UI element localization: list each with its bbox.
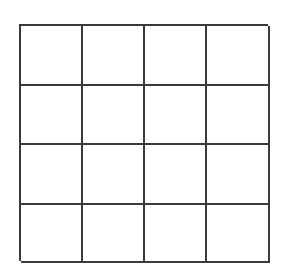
- grid-figure: [19, 24, 268, 261]
- grid-cell-r2c1[interactable]: [21, 86, 83, 145]
- grid-cell-r3c3[interactable]: [145, 145, 207, 205]
- grid-cell-r4c2[interactable]: [83, 205, 145, 263]
- grid-cell-r3c4[interactable]: [207, 145, 270, 205]
- grid-cell-r4c3[interactable]: [145, 205, 207, 263]
- grid-cell-r1c4[interactable]: [207, 26, 270, 86]
- grid-cell-r1c3[interactable]: [145, 26, 207, 86]
- grid-cell-r4c4[interactable]: [207, 205, 270, 263]
- grid-cell-r1c1[interactable]: [21, 26, 83, 86]
- grid-cell-r3c2[interactable]: [83, 145, 145, 205]
- grid-cell-r2c3[interactable]: [145, 86, 207, 145]
- grid-cell-r3c1[interactable]: [21, 145, 83, 205]
- grid-cell-r4c1[interactable]: [21, 205, 83, 263]
- grid-cell-r2c2[interactable]: [83, 86, 145, 145]
- page-canvas: [0, 0, 283, 270]
- grid-cell-r1c2[interactable]: [83, 26, 145, 86]
- grid-cell-r2c4[interactable]: [207, 86, 270, 145]
